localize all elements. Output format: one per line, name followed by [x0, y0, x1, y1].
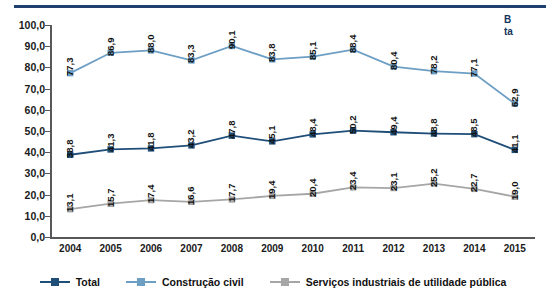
- series-lines: [50, 25, 535, 237]
- legend-marker-icon: [126, 277, 156, 287]
- data-point-label: 88,4: [347, 34, 358, 53]
- series-line: [70, 184, 515, 210]
- plot-area: 77,386,988,083,390,183,885,188,480,478,2…: [50, 25, 535, 237]
- data-point-label: 20,4: [307, 178, 318, 197]
- legend-label: Total: [76, 276, 100, 288]
- data-point-label: 45,1: [266, 126, 277, 145]
- data-point-label: 25,2: [428, 168, 439, 187]
- data-point-label: 41,3: [105, 134, 116, 153]
- data-point-label: 48,4: [307, 119, 318, 138]
- legend-item[interactable]: Serviços industriais de utilidade públic…: [270, 276, 507, 288]
- x-axis-tick-label: 2014: [463, 243, 485, 254]
- x-axis-tick-label: 2006: [140, 243, 162, 254]
- data-point-label: 17,4: [145, 185, 156, 204]
- data-point-label: 48,8: [428, 118, 439, 137]
- data-point-label: 85,1: [307, 41, 318, 60]
- data-point-label: 38,8: [64, 139, 75, 158]
- data-point-label: 83,3: [185, 45, 196, 64]
- data-point-label: 77,1: [468, 58, 479, 77]
- data-point-label: 16,6: [185, 186, 196, 205]
- x-axis-tick-label: 2004: [59, 243, 81, 254]
- legend-marker-icon: [40, 277, 70, 287]
- legend-label: Serviços industriais de utilidade públic…: [306, 276, 507, 288]
- legend-item[interactable]: Construção civil: [126, 276, 244, 288]
- y-axis-tick-label: 90,0: [3, 40, 45, 52]
- y-axis-tick-label: 80,0: [3, 61, 45, 73]
- chart-container: B ta 0,010,020,030,040,050,060,070,080,0…: [0, 0, 546, 295]
- x-axis-tick-label: 2010: [302, 243, 324, 254]
- y-axis-tick-label: 60,0: [3, 104, 45, 116]
- y-axis-tick-label: 50,0: [3, 125, 45, 137]
- data-point-label: 23,4: [347, 172, 358, 191]
- data-point-label: 62,9: [509, 88, 520, 107]
- x-axis-tick-label: 2007: [180, 243, 202, 254]
- x-axis-line: [50, 237, 535, 239]
- data-point-label: 77,3: [64, 58, 75, 77]
- data-point-label: 48,5: [468, 119, 479, 138]
- series-line: [70, 131, 515, 155]
- y-axis-tick-label: 10,0: [3, 210, 45, 222]
- data-point-label: 22,7: [468, 173, 479, 192]
- data-point-label: 15,7: [105, 188, 116, 207]
- legend-item[interactable]: Total: [40, 276, 100, 288]
- legend-label: Construção civil: [162, 276, 244, 288]
- y-axis-labels: 0,010,020,030,040,050,060,070,080,090,01…: [0, 25, 45, 238]
- data-point-label: 19,0: [509, 181, 520, 200]
- data-point-label: 80,4: [388, 51, 399, 70]
- x-axis-tick-label: 2008: [221, 243, 243, 254]
- data-point-label: 23,1: [388, 173, 399, 192]
- x-axis-tick-label: 2009: [261, 243, 283, 254]
- data-point-label: 13,1: [64, 194, 75, 213]
- data-point-label: 19,4: [266, 180, 277, 199]
- y-axis-tick-label: 100,0: [3, 19, 45, 31]
- x-axis-labels: 2004200520062007200820092010201120122013…: [50, 243, 535, 259]
- data-point-label: 49,4: [388, 117, 399, 136]
- chart-legend: TotalConstrução civilServiços industriai…: [0, 272, 546, 292]
- series-line: [70, 46, 515, 104]
- legend-marker-icon: [270, 277, 300, 287]
- x-axis-tick-label: 2012: [382, 243, 404, 254]
- data-point-label: 41,8: [145, 133, 156, 152]
- x-axis-tick-label: 2013: [423, 243, 445, 254]
- x-axis-tick-label: 2005: [100, 243, 122, 254]
- data-point-label: 83,8: [266, 44, 277, 63]
- y-axis-tick-label: 30,0: [3, 167, 45, 179]
- y-axis-tick-label: 40,0: [3, 146, 45, 158]
- top-rule-divider: [14, 5, 546, 8]
- data-point-label: 41,1: [509, 134, 520, 153]
- data-point-label: 86,9: [105, 37, 116, 56]
- data-point-label: 47,8: [226, 120, 237, 139]
- x-axis-tick-label: 2015: [504, 243, 526, 254]
- y-axis-tick-label: 20,0: [3, 189, 45, 201]
- y-axis-tick-label: 70,0: [3, 83, 45, 95]
- x-axis-tick-label: 2011: [342, 243, 364, 254]
- data-point-label: 90,1: [226, 30, 237, 49]
- data-point-label: 17,7: [226, 184, 237, 203]
- data-point-label: 78,2: [428, 56, 439, 75]
- data-point-label: 88,0: [145, 35, 156, 54]
- data-point-label: 43,2: [185, 130, 196, 149]
- data-point-label: 50,2: [347, 115, 358, 134]
- y-axis-tick-label: 0,0: [3, 231, 45, 243]
